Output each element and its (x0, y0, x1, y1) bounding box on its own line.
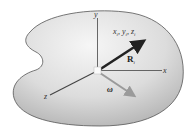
y-axis-label: y (93, 10, 98, 19)
point-coordinates-label: xi, yi, zi (112, 27, 136, 37)
angular-velocity-label: ω (107, 85, 113, 94)
origin-marker (94, 67, 101, 74)
rigid-body-diagram: y x z xi, yi, zi Ri ω (0, 0, 194, 136)
x-axis-label: x (162, 66, 167, 75)
